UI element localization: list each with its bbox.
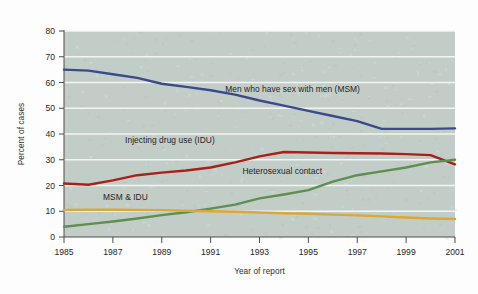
figure-canvas: 0102030405060708019851987198919911993199… [0,0,478,294]
y-axis-tick-label: 20 [45,181,55,191]
y-axis-tick-label: 50 [45,103,55,113]
y-axis-tick-label: 60 [45,78,55,88]
x-axis-tick-label: 1995 [299,247,318,257]
series-label-msm-idu: MSM & IDU [103,192,148,202]
series-label-heterosexual-contact: Heterosexual contact [242,166,322,176]
y-axis-tick-label: 40 [45,129,55,139]
x-axis: 198519871989199119931995199719992001 [54,237,464,257]
y-axis-tick-label: 0 [50,232,55,242]
x-axis-tick-label: 1997 [348,247,367,257]
y-axis-tick-label: 30 [45,155,55,165]
x-axis-tick-label: 1989 [152,247,171,257]
y-axis-tick-label: 70 [45,52,55,62]
y-axis-title: Percent of cases [17,103,26,166]
x-axis-tick-label: 1985 [54,247,73,257]
x-axis-tick-label: 1993 [250,247,269,257]
series-label-men-who-have-sex-with-men-msm: Men who have sex with men (MSM) [225,84,360,94]
x-axis-tick-label: 1991 [201,247,220,257]
line-chart: 0102030405060708019851987198919911993199… [0,0,478,294]
y-axis-tick-label: 80 [45,26,55,36]
x-axis-tick-label: 1999 [397,247,416,257]
x-axis-title: Year of report [234,267,285,276]
x-axis-tick-label: 2001 [445,247,464,257]
y-axis: 01020304050607080 [45,26,64,242]
x-axis-tick-label: 1987 [103,247,122,257]
y-axis-tick-label: 10 [45,206,55,216]
series-label-injecting-drug-use-idu: Injecting drug use (IDU) [125,135,215,145]
